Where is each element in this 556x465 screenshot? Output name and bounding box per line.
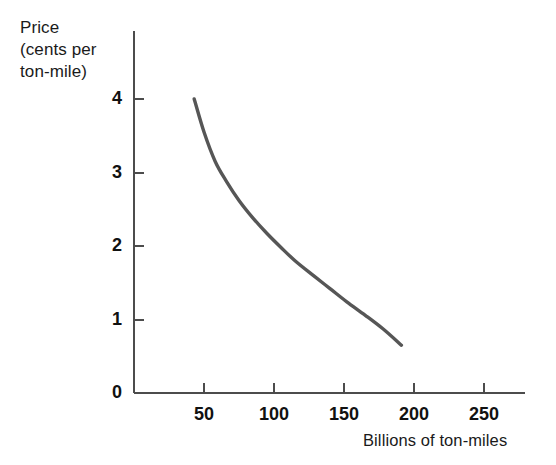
demand-curve-group xyxy=(194,99,401,345)
x-tick-label-200: 200 xyxy=(389,404,439,425)
axes-group xyxy=(134,31,525,393)
chart-plot-area xyxy=(0,0,556,465)
x-tick-label-250: 250 xyxy=(459,404,509,425)
y-tick-label-0: 0 xyxy=(98,382,122,403)
chart-canvas: Price(cents perton-mile) 012345010015020… xyxy=(0,0,556,465)
x-axis-title: Billions of ton-miles xyxy=(363,429,507,451)
y-tick-label-2: 2 xyxy=(98,235,122,256)
demand-curve-line-0 xyxy=(194,99,401,345)
x-tick-label-50: 50 xyxy=(179,404,229,425)
x-tick-label-100: 100 xyxy=(249,404,299,425)
y-tick-label-4: 4 xyxy=(98,88,122,109)
x-tick-label-150: 150 xyxy=(319,404,369,425)
y-tick-label-1: 1 xyxy=(98,309,122,330)
y-tick-label-3: 3 xyxy=(98,162,122,183)
